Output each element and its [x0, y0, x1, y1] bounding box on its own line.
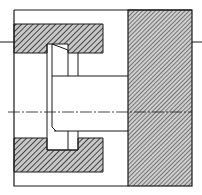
housing-upper-section: [14, 24, 103, 53]
housing-lower-section: [14, 138, 103, 172]
right-block: [128, 10, 192, 186]
shaft: [52, 76, 128, 131]
technical-drawing: [0, 0, 202, 195]
